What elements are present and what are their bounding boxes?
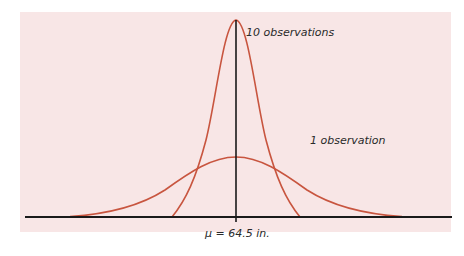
- label-1-observation: 1 observation: [310, 134, 386, 147]
- label-10-observations: 10 observations: [246, 26, 334, 39]
- distribution-plot: [0, 0, 464, 256]
- mean-label: μ = 64.5 in.: [205, 227, 270, 240]
